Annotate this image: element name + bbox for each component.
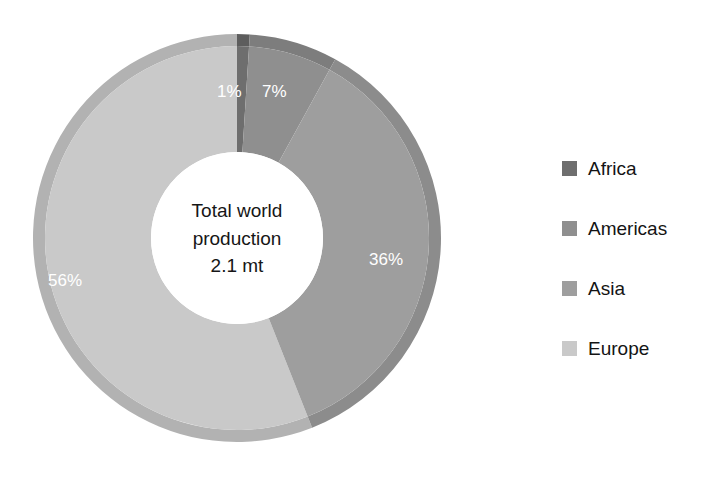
chart-legend: Africa Americas Asia Europe xyxy=(562,138,712,378)
donut-chart-figure: Total world production 2.1 mt 1% 7% 36% … xyxy=(0,0,714,477)
legend-item-americas[interactable]: Americas xyxy=(562,198,712,258)
legend-swatch-americas xyxy=(562,221,577,236)
legend-swatch-africa xyxy=(562,161,577,176)
legend-item-africa[interactable]: Africa xyxy=(562,138,712,198)
legend-label-asia: Asia xyxy=(588,279,625,298)
legend-label-americas: Americas xyxy=(588,219,667,238)
donut-hole xyxy=(151,152,323,324)
legend-swatch-asia xyxy=(562,281,577,296)
legend-swatch-europe xyxy=(562,341,577,356)
legend-item-asia[interactable]: Asia xyxy=(562,258,712,318)
legend-label-africa: Africa xyxy=(588,159,637,178)
donut-chart-graphic xyxy=(32,33,442,443)
slice-africa-rim xyxy=(237,34,250,46)
legend-label-europe: Europe xyxy=(588,339,649,358)
legend-item-europe[interactable]: Europe xyxy=(562,318,712,378)
donut-svg xyxy=(32,33,442,443)
